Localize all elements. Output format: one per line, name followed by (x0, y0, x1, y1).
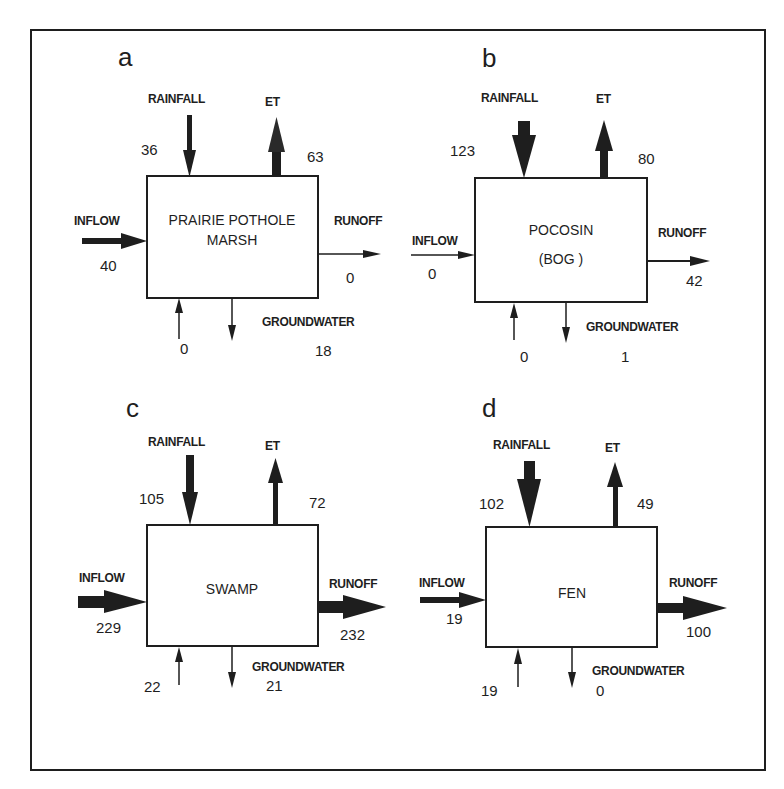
rainfall-arrow-icon (512, 121, 536, 178)
panel-c: c SWAMP RAINFALL 105 ET 72 INFLOW 229 RU… (78, 393, 386, 695)
groundwater-in-arrow-icon (514, 648, 522, 687)
wetland-name: PRAIRIE POTHOLE (169, 212, 296, 228)
groundwater-label: GROUNDWATER (592, 664, 685, 678)
et-arrow-icon (595, 120, 613, 178)
groundwater-in-arrow-icon (175, 647, 183, 685)
et-label: ET (605, 441, 621, 455)
wetland-name: POCOSIN (529, 222, 594, 238)
groundwater-out-value: 18 (315, 342, 332, 359)
groundwater-out-arrow-icon (228, 646, 236, 688)
inflow-value: 229 (96, 619, 121, 636)
groundwater-out-arrow-icon (562, 302, 570, 343)
et-value: 72 (309, 494, 326, 511)
et-label: ET (596, 92, 612, 106)
rainfall-arrow-icon (182, 455, 198, 525)
et-value: 80 (638, 150, 655, 167)
et-value: 49 (637, 495, 654, 512)
rainfall-label: RAINFALL (148, 92, 205, 106)
runoff-label: RUNOFF (658, 226, 706, 240)
wetland-name: SWAMP (206, 581, 258, 597)
inflow-value: 19 (446, 610, 463, 627)
et-arrow-icon (607, 462, 623, 527)
groundwater-out-value: 0 (596, 682, 604, 699)
rainfall-arrow-icon (183, 115, 196, 177)
panel-letter: c (126, 393, 139, 423)
panel-d: d FEN RAINFALL 102 ET 49 INFLOW 19 RUNOF… (419, 393, 727, 699)
et-label: ET (265, 439, 281, 453)
panel-b: b POCOSIN (BOG ) RAINFALL 123 ET 80 INFL… (411, 43, 710, 365)
groundwater-in-arrow-icon (175, 298, 183, 339)
groundwater-label: GROUNDWATER (262, 315, 355, 329)
inflow-arrow-icon (82, 233, 147, 249)
groundwater-in-arrow-icon (510, 303, 518, 340)
wetland-water-budget-figure: a PRAIRIE POTHOLE MARSH RAINFALL 36 ET 6… (0, 0, 784, 789)
groundwater-in-value: 19 (481, 682, 498, 699)
wetland-name-line2: (BOG ) (539, 251, 583, 267)
runoff-value: 100 (686, 623, 711, 640)
groundwater-in-value: 0 (180, 340, 188, 357)
inflow-arrow-icon (78, 590, 147, 613)
rainfall-value: 123 (450, 142, 475, 159)
et-value: 63 (307, 148, 324, 165)
rainfall-arrow-icon (517, 461, 541, 527)
inflow-value: 0 (428, 265, 436, 282)
rainfall-value: 36 (141, 141, 158, 158)
runoff-arrow-icon (318, 250, 381, 258)
groundwater-in-value: 0 (520, 348, 528, 365)
panel-letter: a (118, 42, 133, 72)
rainfall-value: 102 (479, 495, 504, 512)
panel-a: a PRAIRIE POTHOLE MARSH RAINFALL 36 ET 6… (74, 42, 382, 359)
inflow-label: INFLOW (419, 576, 465, 590)
wetland-box (475, 178, 647, 302)
runoff-value: 0 (346, 269, 354, 286)
rainfall-label: RAINFALL (481, 91, 538, 105)
groundwater-label: GROUNDWATER (252, 660, 345, 674)
inflow-label: INFLOW (74, 214, 120, 228)
runoff-label: RUNOFF (329, 577, 377, 591)
runoff-label: RUNOFF (334, 214, 382, 228)
wetland-name: FEN (558, 585, 586, 601)
runoff-arrow-icon (657, 596, 727, 620)
runoff-arrow-icon (318, 595, 386, 619)
runoff-arrow-icon (647, 256, 710, 266)
groundwater-in-value: 22 (144, 678, 161, 695)
inflow-label: INFLOW (412, 234, 458, 248)
inflow-value: 40 (100, 257, 117, 274)
groundwater-out-arrow-icon (568, 647, 576, 688)
rainfall-label: RAINFALL (148, 435, 205, 449)
et-label: ET (265, 95, 281, 109)
rainfall-label: RAINFALL (493, 438, 550, 452)
runoff-value: 42 (686, 272, 703, 289)
inflow-arrow-icon (411, 251, 475, 259)
panel-letter: b (482, 43, 496, 73)
groundwater-out-arrow-icon (228, 298, 236, 341)
wetland-name-line2: MARSH (207, 232, 258, 248)
runoff-value: 232 (340, 626, 365, 643)
rainfall-value: 105 (139, 490, 164, 507)
inflow-label: INFLOW (79, 571, 125, 585)
groundwater-label: GROUNDWATER (586, 320, 679, 334)
runoff-label: RUNOFF (669, 576, 717, 590)
inflow-arrow-icon (420, 592, 486, 608)
groundwater-out-value: 1 (621, 348, 629, 365)
et-arrow-icon (268, 458, 283, 526)
et-arrow-icon (268, 117, 285, 176)
groundwater-out-value: 21 (266, 677, 283, 694)
panel-letter: d (482, 393, 496, 423)
